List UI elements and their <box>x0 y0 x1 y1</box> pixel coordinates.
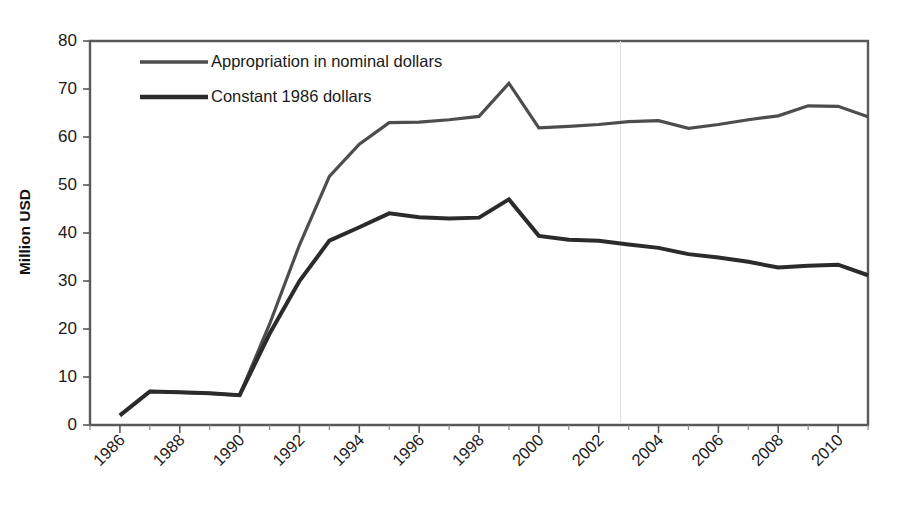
series-line-appropriation-in-nominal-dollars <box>120 83 868 415</box>
x-tick-label: 1996 <box>389 430 428 469</box>
x-tick-label: 1992 <box>269 430 308 469</box>
x-tick-label: 2002 <box>568 430 607 469</box>
y-tick-label: 0 <box>68 415 77 434</box>
x-tick-label: 2008 <box>748 430 787 469</box>
y-tick-label: 80 <box>58 31 77 50</box>
legend-label: Appropriation in nominal dollars <box>211 52 442 70</box>
y-tick-label: 30 <box>58 271 77 290</box>
y-axis-title: Million USD <box>16 189 33 275</box>
line-chart-figure: 01020304050607080 1986198819901992199419… <box>0 0 898 506</box>
x-tick-label: 2000 <box>508 430 547 469</box>
y-axis-ticks: 01020304050607080 <box>58 31 90 434</box>
legend-label: Constant 1986 dollars <box>211 87 372 105</box>
x-tick-label: 1990 <box>209 430 248 469</box>
chart-legend: Appropriation in nominal dollarsConstant… <box>140 52 442 105</box>
y-tick-label: 70 <box>58 79 77 98</box>
chart-container: 01020304050607080 1986198819901992199419… <box>0 0 898 506</box>
y-tick-label: 40 <box>58 223 77 242</box>
x-tick-label: 1994 <box>329 430 368 469</box>
x-tick-label: 1986 <box>89 430 128 469</box>
y-tick-label: 20 <box>58 319 77 338</box>
x-tick-label: 2006 <box>688 430 727 469</box>
y-tick-label: 10 <box>58 367 77 386</box>
x-tick-label: 1998 <box>448 430 487 469</box>
x-tick-label: 2004 <box>628 430 667 469</box>
data-series-group <box>120 83 868 415</box>
y-tick-label: 60 <box>58 127 77 146</box>
x-tick-label: 1988 <box>149 430 188 469</box>
series-line-constant-1986-dollars <box>120 199 868 415</box>
x-axis-tick-labels: 1986198819901992199419961998200020022004… <box>89 430 846 469</box>
x-tick-label: 2010 <box>808 430 847 469</box>
y-tick-label: 50 <box>58 175 77 194</box>
